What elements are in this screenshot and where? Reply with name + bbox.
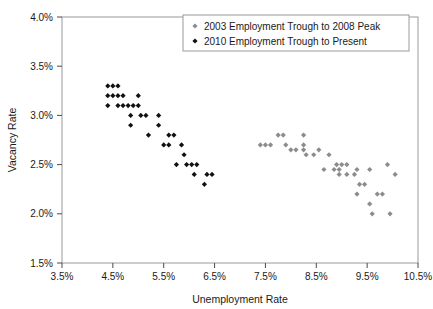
x-tick-label: 7.5% [254,271,277,282]
y-tick-label: 2.0% [30,208,53,219]
chart-canvas: 3.5%4.5%5.5%6.5%7.5%8.5%9.5%10.5% 1.5%2.… [0,0,433,309]
y-tick-label: 3.0% [30,110,53,121]
y-tick-label: 3.5% [30,61,53,72]
legend-label-1: 2003 Employment Trough to 2008 Peak [204,21,381,32]
x-tick-label: 4.5% [101,271,124,282]
x-tick-label: 5.5% [152,271,175,282]
x-tick-label: 10.5% [404,271,432,282]
y-tick-label: 1.5% [30,258,53,269]
y-axis-title: Vacancy Rate [6,108,18,173]
y-tick-label: 2.5% [30,159,53,170]
legend-label-2: 2010 Employment Trough to Present [204,36,367,47]
y-tick-label: 4.0% [30,12,53,23]
x-tick-label: 3.5% [51,271,74,282]
x-tick-label: 6.5% [203,271,226,282]
scatter-chart: 3.5%4.5%5.5%6.5%7.5%8.5%9.5%10.5% 1.5%2.… [0,0,433,309]
x-tick-label: 8.5% [305,271,328,282]
x-axis-title: Unemployment Rate [192,293,288,305]
x-tick-label: 9.5% [356,271,379,282]
chart-legend: 2003 Employment Trough to 2008 Peak2010 … [183,15,409,51]
